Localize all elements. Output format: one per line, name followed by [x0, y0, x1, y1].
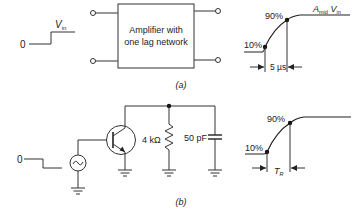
pct-high-b: 90% — [267, 114, 285, 124]
block-line-2: one lag network — [124, 37, 188, 47]
vin-label: Vin — [55, 19, 66, 31]
rise-time-label-a: 5 µs — [270, 62, 286, 72]
pct-high-a: 90% — [265, 11, 283, 21]
amid-vin-label: Amid Vin — [312, 4, 341, 15]
resistor-label: 4 kΩ — [142, 135, 161, 145]
ground-icon — [208, 170, 222, 176]
amplifier-block: Amplifier with one lag network — [118, 4, 194, 68]
zero-label-b: 0 — [17, 154, 23, 165]
caption-b: (b) — [176, 197, 187, 207]
ground-icon — [118, 170, 132, 176]
rise-time-label-b: TR — [274, 166, 284, 177]
zero-label-a: 0 — [20, 39, 26, 50]
resistor: 4 kΩ — [142, 106, 176, 176]
pct-low-b: 10% — [245, 143, 263, 153]
part-a: 0 Vin Amplifier with one lag network — [20, 4, 350, 90]
block-line-1: Amplifier with — [129, 25, 183, 35]
capacitor-label: 50 pF — [184, 133, 208, 143]
rise-time-figure: 0 Vin Amplifier with one lag network — [0, 0, 362, 222]
caption-a: (a) — [176, 80, 187, 90]
input-step-a: 0 Vin — [20, 19, 75, 50]
ground-icon — [162, 170, 176, 176]
output-terminals — [194, 9, 221, 63]
pct-low-a: 10% — [244, 40, 262, 50]
capacitor: 50 pF — [184, 106, 222, 176]
output-waveform-a: 5 µs 10% 90% Amid Vin — [244, 4, 350, 72]
ground-icon — [71, 188, 85, 194]
npn-transistor — [107, 106, 136, 176]
output-waveform-b: TR 10% 90% — [245, 114, 351, 177]
ac-source — [70, 140, 112, 194]
part-b: 0 — [17, 104, 351, 207]
input-terminals — [91, 11, 119, 64]
input-step-b: 0 — [17, 154, 62, 168]
